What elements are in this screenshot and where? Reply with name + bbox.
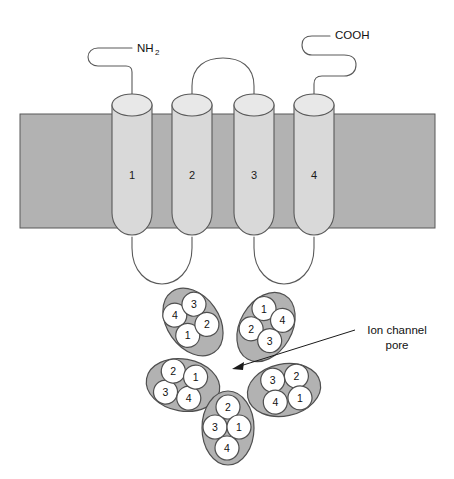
subunit-bottom: 2 3 1 4 <box>202 391 254 465</box>
domain-label: 2 <box>204 318 210 330</box>
n-terminus-label: NH <box>137 42 154 54</box>
subunit-right: 2 1 3 4 <box>242 357 325 423</box>
helix-2-label: 2 <box>189 169 195 181</box>
domain-label: 1 <box>261 303 267 315</box>
subunit-top-left-outline <box>150 277 235 367</box>
domain-label: 3 <box>163 386 169 398</box>
domain-label: 3 <box>267 335 273 347</box>
subunit-right-outline <box>242 357 325 423</box>
ion-channel-diagram: NH 2 COOH 1 2 3 <box>0 0 454 479</box>
domain-label: 2 <box>293 370 299 382</box>
helix-2-cap <box>172 94 212 116</box>
c-terminus-label: COOH <box>335 29 370 41</box>
helix-4-cap <box>294 94 334 116</box>
loop-helix1-helix2 <box>132 237 192 284</box>
subunit-top-right: 1 4 2 3 <box>225 282 307 372</box>
subunit-top-left: 4 3 1 2 <box>150 277 235 367</box>
domain-label: 3 <box>191 298 197 310</box>
loop-helix3-helix4 <box>254 237 314 284</box>
subunit-top-right-outline <box>225 282 307 372</box>
domain-label: 1 <box>236 421 242 433</box>
domain-label: 1 <box>193 371 199 383</box>
transmembrane-helix-2: 2 <box>172 94 212 235</box>
transmembrane-helix-1: 1 <box>112 94 152 235</box>
diagram-canvas: NH 2 COOH 1 2 3 <box>0 0 454 479</box>
domain-label: 4 <box>224 442 230 454</box>
domain-label: 1 <box>185 329 191 341</box>
pore-callout-line2: pore <box>385 339 408 351</box>
transmembrane-helix-4: 4 <box>294 94 334 235</box>
transmembrane-helix-3: 3 <box>234 94 274 235</box>
n-terminus-subscript: 2 <box>155 48 160 57</box>
helix-4-label: 4 <box>311 169 317 181</box>
helix-3-cap <box>234 94 274 116</box>
pore-callout-line1: Ion channel <box>367 324 426 336</box>
domain-label: 2 <box>170 365 176 377</box>
pore-callout-arrowhead <box>232 362 244 370</box>
domain-label: 4 <box>172 309 178 321</box>
domain-label: 3 <box>212 421 218 433</box>
domain-label: 2 <box>225 401 231 413</box>
domain-label: 1 <box>297 392 303 404</box>
domain-label: 3 <box>270 374 276 386</box>
lipid-membrane-band <box>20 114 435 228</box>
helix-3-label: 3 <box>251 169 257 181</box>
domain-label: 4 <box>272 396 278 408</box>
helix-1-label: 1 <box>129 169 135 181</box>
helix-1-cap <box>112 94 152 116</box>
domain-label: 2 <box>248 323 254 335</box>
domain-label: 4 <box>280 314 286 326</box>
domain-label: 4 <box>186 392 192 404</box>
